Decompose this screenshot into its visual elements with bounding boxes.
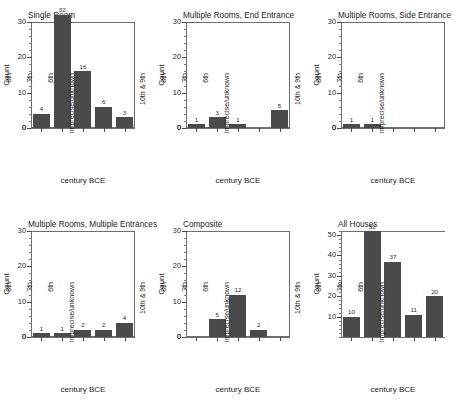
x-tick bbox=[393, 128, 394, 132]
bar bbox=[229, 295, 246, 337]
bar bbox=[95, 330, 112, 337]
chart-panel: Multiple Rooms, End Entrance01020300Coun… bbox=[155, 0, 310, 209]
y-tick-label: 20 bbox=[18, 262, 26, 270]
y-tick-label: 30 bbox=[173, 18, 181, 26]
x-tick bbox=[259, 337, 260, 341]
x-tick bbox=[41, 128, 42, 132]
y-tick-label: 40 bbox=[328, 251, 336, 259]
x-tick bbox=[372, 128, 373, 132]
x-tick-label: imprecise/unknown bbox=[378, 73, 386, 133]
x-tick-label: 10th & 9th bbox=[139, 73, 147, 133]
bar-slot: 3 bbox=[114, 22, 135, 128]
x-tick bbox=[238, 337, 239, 341]
x-tick-label: 7th bbox=[336, 282, 344, 342]
y-tick-label: 30 bbox=[328, 272, 336, 280]
x-tick bbox=[372, 337, 373, 341]
chart-panel: Single Room01020300Count432166310th & 9t… bbox=[0, 0, 155, 209]
x-tick-label: 7th bbox=[26, 73, 34, 133]
x-tick-label: 7th bbox=[336, 73, 344, 133]
y-tick-label: 10 bbox=[18, 89, 26, 97]
x-axis-title: century BCE bbox=[186, 385, 290, 394]
x-tick bbox=[217, 128, 218, 132]
y-tick-label: 30 bbox=[18, 227, 26, 235]
bar-slot: 11 bbox=[403, 231, 424, 337]
x-tick-label: 7th bbox=[181, 282, 189, 342]
x-axis-title: century BCE bbox=[186, 176, 290, 185]
y-tick-label: 10 bbox=[328, 89, 336, 97]
x-axis-title: century BCE bbox=[31, 385, 135, 394]
x-tick bbox=[393, 337, 394, 341]
bar bbox=[426, 296, 443, 337]
chart-panel: Multiple Rooms, Multiple Entrances010203… bbox=[0, 209, 155, 418]
y-tick-label: 30 bbox=[18, 18, 26, 26]
bar-slot bbox=[248, 22, 269, 128]
x-tick bbox=[104, 337, 105, 341]
x-tick-label: 10th & 9th bbox=[294, 282, 302, 342]
x-tick bbox=[351, 337, 352, 341]
bar bbox=[384, 262, 401, 337]
y-tick-label: 20 bbox=[328, 53, 336, 61]
chart-panel: All Houses1020304050Count105237112010th … bbox=[310, 209, 465, 418]
x-tick-label: 8th bbox=[315, 282, 323, 342]
x-tick bbox=[62, 128, 63, 132]
x-tick bbox=[280, 337, 281, 341]
x-tick bbox=[217, 337, 218, 341]
x-tick bbox=[238, 128, 239, 132]
x-tick bbox=[435, 128, 436, 132]
x-tick bbox=[125, 337, 126, 341]
bar-slot: 2 bbox=[248, 231, 269, 337]
chart-panel: Multiple Rooms, Side Entrance01020300Cou… bbox=[310, 0, 465, 209]
x-tick-label: 6th bbox=[202, 73, 210, 133]
x-tick-label: 8th bbox=[5, 282, 13, 342]
x-tick-label: 10th & 9th bbox=[294, 73, 302, 133]
y-tick-label: 50 bbox=[328, 231, 336, 239]
panel-title: Multiple Rooms, Side Entrance bbox=[338, 11, 451, 20]
x-axis-title: century BCE bbox=[31, 176, 135, 185]
x-tick bbox=[280, 128, 281, 132]
bar bbox=[250, 330, 267, 337]
x-tick-label: 6th bbox=[47, 73, 55, 133]
figure-panel-grid: Single Room01020300Count432166310th & 9t… bbox=[0, 0, 466, 418]
x-axis-title: century BCE bbox=[341, 176, 445, 185]
x-tick-label: 6th bbox=[357, 73, 365, 133]
x-tick-label: 7th bbox=[181, 73, 189, 133]
x-tick bbox=[125, 128, 126, 132]
y-tick-label: 30 bbox=[173, 227, 181, 235]
x-tick bbox=[41, 337, 42, 341]
x-tick-label: 8th bbox=[160, 73, 168, 133]
y-tick-label: 20 bbox=[173, 53, 181, 61]
bar bbox=[74, 330, 91, 337]
bar bbox=[405, 315, 422, 337]
panel-title: Multiple Rooms, Multiple Entrances bbox=[28, 220, 157, 229]
bar-value-label: 20 bbox=[415, 288, 455, 295]
bar-slot: 4 bbox=[114, 231, 135, 337]
bar bbox=[116, 117, 133, 128]
x-tick bbox=[104, 128, 105, 132]
bar-slot: 5 bbox=[269, 22, 290, 128]
x-tick bbox=[83, 337, 84, 341]
panel-title: Composite bbox=[183, 220, 222, 229]
bar bbox=[116, 323, 133, 337]
y-tick-label: 10 bbox=[18, 298, 26, 306]
x-tick-label: 6th bbox=[202, 282, 210, 342]
x-tick bbox=[196, 128, 197, 132]
x-tick-label: 6th bbox=[357, 282, 365, 342]
panel-title: Multiple Rooms, End Entrance bbox=[183, 11, 294, 20]
y-tick-label: 20 bbox=[328, 292, 336, 300]
x-axis-title: century BCE bbox=[341, 385, 445, 394]
x-tick bbox=[196, 337, 197, 341]
y-tick-label: 10 bbox=[173, 89, 181, 97]
chart-panel: Composite01020300Count512210th & 9th8th7… bbox=[155, 209, 310, 418]
y-tick-label: 20 bbox=[173, 262, 181, 270]
x-tick-label: imprecise/unknown bbox=[68, 282, 76, 342]
bar-value-label: 52 bbox=[352, 223, 392, 230]
bar-slot bbox=[403, 22, 424, 128]
x-tick-label: 6th bbox=[47, 282, 55, 342]
x-tick-label: 8th bbox=[5, 73, 13, 133]
x-tick bbox=[259, 128, 260, 132]
bar-slot bbox=[269, 231, 290, 337]
y-tick-label: 30 bbox=[328, 18, 336, 26]
x-tick-label: 7th bbox=[26, 282, 34, 342]
x-tick-label: imprecise/unknown bbox=[68, 73, 76, 133]
bar-value-label: 32 bbox=[42, 6, 82, 13]
